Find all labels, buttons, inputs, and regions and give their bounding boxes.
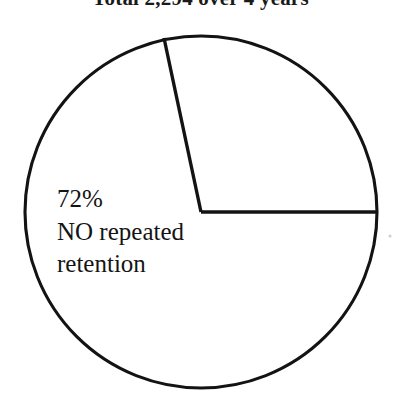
pie-chart-graphic — [0, 0, 401, 415]
scan-speck — [388, 234, 391, 237]
pie-svg — [0, 0, 401, 415]
pie-chart-figure: Total 2,294 over 4 years 72% NO repeated… — [0, 0, 401, 415]
